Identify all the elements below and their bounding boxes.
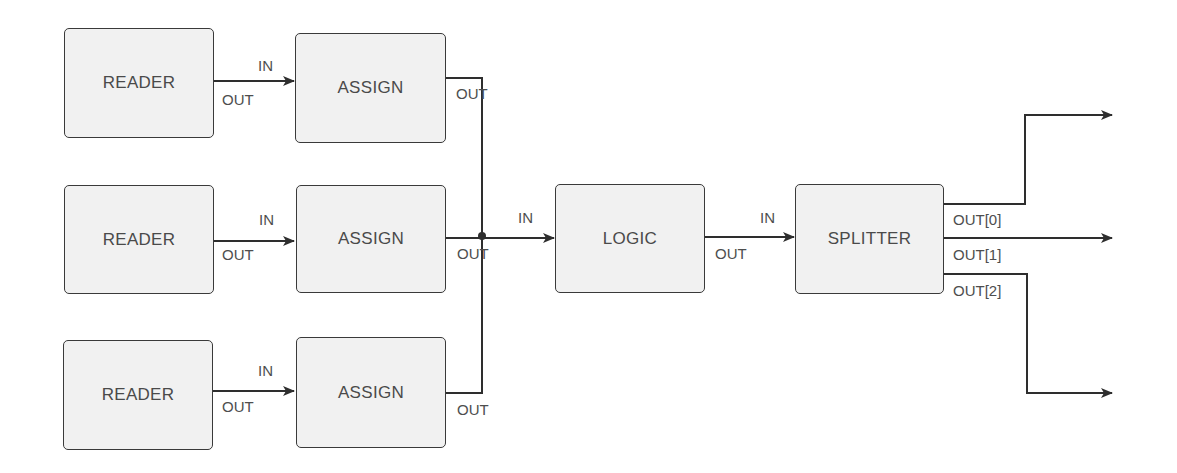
logic-node[interactable]: LOGIC [555, 184, 705, 293]
port-label-in: IN [518, 210, 533, 225]
node-label: READER [103, 73, 176, 93]
port-label-out: OUT [222, 247, 254, 262]
port-label-out: OUT [456, 86, 488, 101]
node-label: ASSIGN [338, 229, 404, 249]
assign-node-3[interactable]: ASSIGN [296, 337, 446, 448]
port-label-in: IN [258, 58, 273, 73]
reader-node-2[interactable]: READER [64, 185, 214, 294]
assign-node-1[interactable]: ASSIGN [295, 33, 446, 143]
node-label: ASSIGN [338, 383, 404, 403]
splitter-node[interactable]: SPLITTER [795, 184, 944, 294]
port-label-in: IN [258, 363, 273, 378]
node-label: LOGIC [603, 229, 657, 249]
assign-node-2[interactable]: ASSIGN [296, 185, 446, 293]
junction-dot [478, 232, 486, 240]
port-label-out0: OUT[0] [953, 212, 1001, 227]
port-label-out: OUT [457, 246, 489, 261]
port-label-in: IN [760, 210, 775, 225]
reader-node-3[interactable]: READER [63, 340, 213, 450]
port-label-out2: OUT[2] [953, 283, 1001, 298]
port-label-in: IN [259, 212, 274, 227]
node-label: READER [102, 385, 175, 405]
port-label-out: OUT [457, 402, 489, 417]
port-label-out: OUT [715, 246, 747, 261]
node-label: ASSIGN [337, 78, 403, 98]
port-label-out1: OUT[1] [953, 247, 1001, 262]
reader-node-1[interactable]: READER [64, 28, 214, 138]
port-label-out: OUT [222, 92, 254, 107]
node-label: READER [103, 230, 176, 250]
edge-splitter-out0 [943, 115, 1112, 204]
port-label-out: OUT [222, 399, 254, 414]
node-label: SPLITTER [828, 229, 912, 249]
